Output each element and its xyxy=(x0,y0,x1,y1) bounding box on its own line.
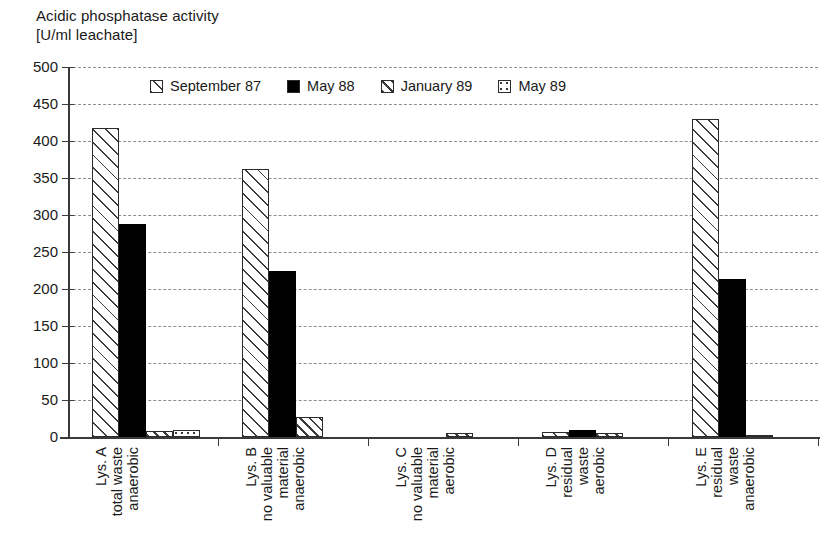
gridline xyxy=(68,67,818,68)
y-axis-tick xyxy=(62,104,74,105)
bar[interactable] xyxy=(692,119,719,437)
y-axis-tick xyxy=(62,437,74,438)
y-axis-tick-label: 400 xyxy=(0,132,58,149)
bar[interactable] xyxy=(242,169,269,437)
y-axis-tick-label: 300 xyxy=(0,206,58,223)
bar[interactable] xyxy=(446,433,473,437)
y-axis-tick xyxy=(62,67,74,68)
bar-chart: 500450400350300250200150100500 September… xyxy=(0,0,836,557)
x-axis-tick xyxy=(668,437,669,446)
bar[interactable] xyxy=(92,128,119,437)
bar[interactable] xyxy=(146,431,173,437)
y-axis-tick xyxy=(62,252,74,253)
y-axis-tick-label: 100 xyxy=(0,354,58,371)
y-axis-tick xyxy=(62,178,74,179)
legend-label: May 89 xyxy=(518,78,566,94)
legend-item[interactable]: May 88 xyxy=(287,78,355,94)
legend-label: May 88 xyxy=(307,78,355,94)
gridline xyxy=(68,104,818,105)
bar[interactable] xyxy=(296,417,323,437)
y-axis-tick xyxy=(62,141,74,142)
y-axis-tick-label: 450 xyxy=(0,95,58,112)
legend-item[interactable]: May 89 xyxy=(498,78,566,94)
x-axis-tick xyxy=(218,437,219,446)
legend-item[interactable]: September 87 xyxy=(150,78,261,94)
chart-legend: September 87May 88January 89May 89 xyxy=(150,78,566,94)
legend-label: September 87 xyxy=(170,78,261,94)
y-axis-tick-label: 250 xyxy=(0,243,58,260)
figure-caption xyxy=(28,541,828,557)
y-axis-tick-label: 350 xyxy=(0,169,58,186)
y-axis-tick xyxy=(62,326,74,327)
y-axis-tick xyxy=(62,215,74,216)
y-axis-tick-label: 500 xyxy=(0,58,58,75)
y-axis-tick-label: 0 xyxy=(0,428,58,445)
bar[interactable] xyxy=(119,224,146,437)
x-axis-tick xyxy=(518,437,519,446)
x-axis-tick xyxy=(818,437,819,446)
y-axis-tick xyxy=(62,289,74,290)
legend-label: January 89 xyxy=(401,78,473,94)
bar[interactable] xyxy=(719,279,746,437)
bar[interactable] xyxy=(542,432,569,437)
y-axis-tick xyxy=(62,363,74,364)
legend-swatch-icon xyxy=(381,80,394,93)
bar[interactable] xyxy=(173,430,200,437)
bar[interactable] xyxy=(569,430,596,437)
legend-item[interactable]: January 89 xyxy=(381,78,473,94)
legend-swatch-icon xyxy=(150,80,163,93)
y-axis-tick xyxy=(62,400,74,401)
y-axis-tick-label: 200 xyxy=(0,280,58,297)
bar[interactable] xyxy=(269,271,296,438)
y-axis-tick-label: 150 xyxy=(0,317,58,334)
legend-swatch-icon xyxy=(498,80,511,93)
legend-swatch-icon xyxy=(287,80,300,93)
bar[interactable] xyxy=(746,435,773,437)
x-axis-line xyxy=(60,437,820,439)
y-axis-tick-label: 50 xyxy=(0,391,58,408)
x-axis-tick xyxy=(368,437,369,446)
bar[interactable] xyxy=(596,433,623,437)
